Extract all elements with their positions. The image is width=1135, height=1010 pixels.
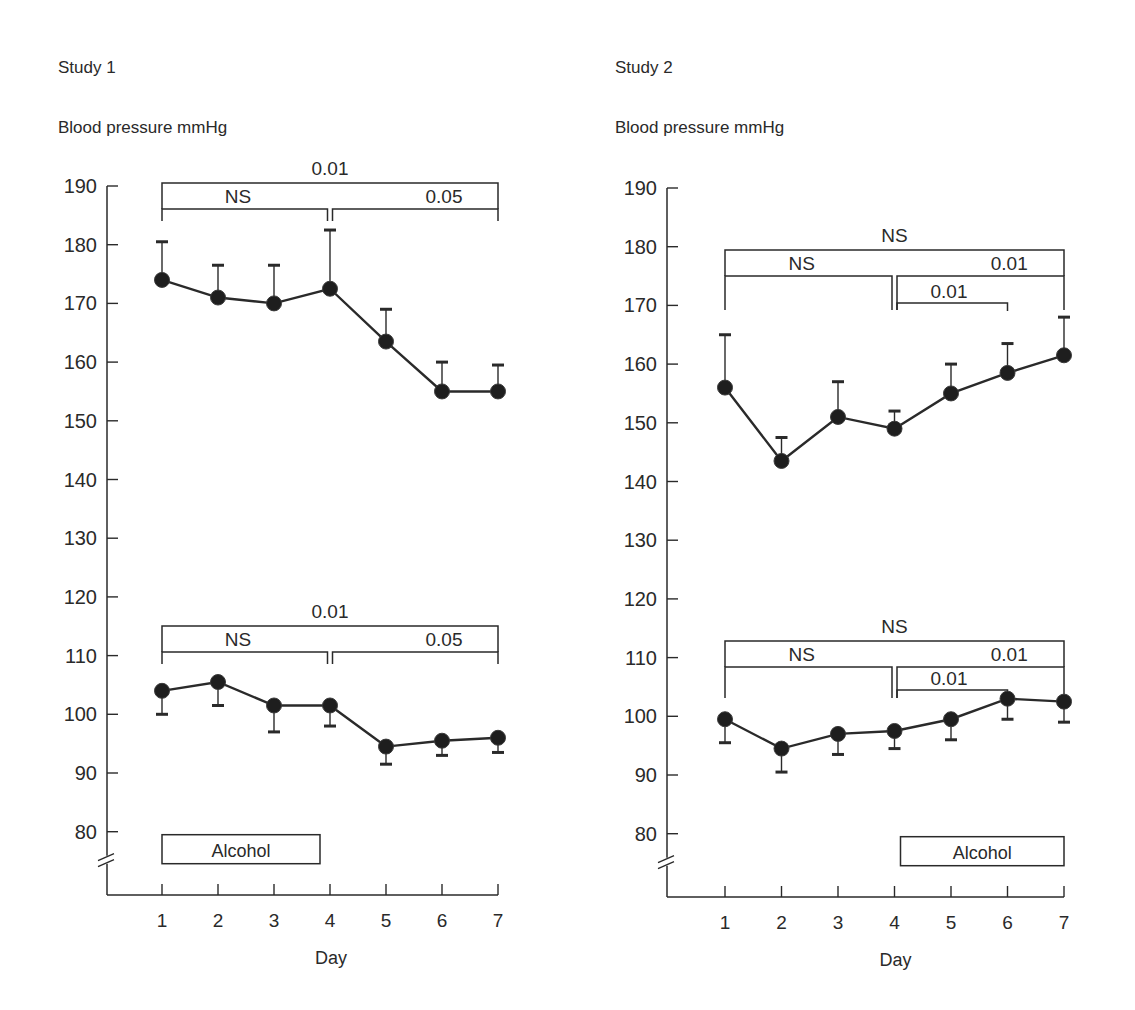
x-tick-label: 5 xyxy=(946,912,957,933)
data-point xyxy=(831,409,846,424)
x-axis-label: Day xyxy=(315,948,347,968)
significance-label: 0.01 xyxy=(312,158,349,179)
alcohol-label: Alcohol xyxy=(953,843,1012,863)
x-tick-label: 1 xyxy=(157,910,168,931)
y-tick-label: 90 xyxy=(635,764,657,786)
y-axis-label: Blood pressure mmHg xyxy=(58,118,227,137)
y-tick-label: 80 xyxy=(635,823,657,845)
data-point xyxy=(774,741,789,756)
data-point xyxy=(944,386,959,401)
significance-label: NS xyxy=(789,644,815,665)
data-point xyxy=(435,733,450,748)
data-point xyxy=(379,334,394,349)
x-tick-label: 2 xyxy=(776,912,787,933)
data-point xyxy=(211,290,226,305)
y-tick-label: 180 xyxy=(624,236,657,258)
y-tick-label: 150 xyxy=(64,410,97,432)
data-point xyxy=(1057,694,1072,709)
x-tick-label: 3 xyxy=(269,910,280,931)
x-axis-label: Day xyxy=(879,950,911,970)
series-systolic xyxy=(155,230,506,399)
significance-label: 0.05 xyxy=(426,629,463,650)
data-point xyxy=(267,296,282,311)
significance-label: 0.01 xyxy=(931,668,968,689)
x-tick-label: 4 xyxy=(325,910,336,931)
series-systolic xyxy=(718,317,1072,468)
y-tick-label: 120 xyxy=(624,588,657,610)
data-point xyxy=(379,739,394,754)
data-point xyxy=(1000,691,1015,706)
y-tick-label: 170 xyxy=(64,292,97,314)
y-tick-label: 90 xyxy=(75,762,97,784)
blood-pressure-figure: Study 1Blood pressure mmHg80901001101201… xyxy=(0,0,1135,1010)
data-point xyxy=(323,698,338,713)
data-point xyxy=(831,726,846,741)
data-point xyxy=(718,380,733,395)
panel-title: Study 1 xyxy=(58,58,116,77)
y-tick-label: 190 xyxy=(624,177,657,199)
x-tick-label: 6 xyxy=(1002,912,1013,933)
x-tick-label: 3 xyxy=(833,912,844,933)
data-point xyxy=(211,675,226,690)
data-point xyxy=(491,384,506,399)
data-point xyxy=(323,281,338,296)
data-point xyxy=(944,712,959,727)
y-tick-label: 160 xyxy=(624,353,657,375)
panel-study-1: Study 1Blood pressure mmHg80901001101201… xyxy=(58,58,506,968)
x-tick-label: 2 xyxy=(213,910,224,931)
series-diastolic xyxy=(718,691,1072,772)
data-point xyxy=(774,453,789,468)
data-point xyxy=(718,712,733,727)
y-tick-label: 110 xyxy=(65,645,97,667)
significance-label: NS xyxy=(225,186,251,207)
y-tick-label: 140 xyxy=(64,469,97,491)
x-tick-label: 7 xyxy=(1059,912,1070,933)
data-point xyxy=(435,384,450,399)
y-tick-label: 130 xyxy=(624,529,657,551)
significance-label: NS xyxy=(789,253,815,274)
y-tick-label: 110 xyxy=(625,647,657,669)
significance-label: 0.01 xyxy=(991,644,1028,665)
y-tick-label: 100 xyxy=(624,705,657,727)
y-tick-label: 130 xyxy=(64,527,97,549)
data-point xyxy=(887,723,902,738)
data-point xyxy=(155,683,170,698)
data-point xyxy=(887,421,902,436)
significance-label: NS xyxy=(881,225,907,246)
significance-label: 0.05 xyxy=(426,186,463,207)
significance-label: 0.01 xyxy=(312,601,349,622)
panel-title: Study 2 xyxy=(615,58,673,77)
x-tick-label: 6 xyxy=(437,910,448,931)
significance-label: 0.01 xyxy=(931,281,968,302)
data-point xyxy=(1057,348,1072,363)
data-point xyxy=(155,272,170,287)
y-tick-label: 80 xyxy=(75,821,97,843)
significance-label: 0.01 xyxy=(991,253,1028,274)
data-point xyxy=(267,698,282,713)
x-tick-label: 7 xyxy=(493,910,504,931)
y-tick-label: 160 xyxy=(64,351,97,373)
y-tick-label: 140 xyxy=(624,471,657,493)
y-tick-label: 150 xyxy=(624,412,657,434)
panel-study-2: Study 2Blood pressure mmHg80901001101201… xyxy=(615,58,1072,970)
data-point xyxy=(491,730,506,745)
axis-break-icon xyxy=(658,856,674,863)
data-point xyxy=(1000,365,1015,380)
x-tick-label: 1 xyxy=(720,912,731,933)
significance-label: NS xyxy=(881,616,907,637)
y-tick-label: 180 xyxy=(64,234,97,256)
x-tick-label: 5 xyxy=(381,910,392,931)
x-tick-label: 4 xyxy=(889,912,900,933)
series-diastolic xyxy=(155,675,506,765)
y-tick-label: 170 xyxy=(624,294,657,316)
y-tick-label: 120 xyxy=(64,586,97,608)
significance-label: NS xyxy=(225,629,251,650)
y-tick-label: 190 xyxy=(64,175,97,197)
axis-break-icon xyxy=(98,854,114,861)
alcohol-label: Alcohol xyxy=(211,841,270,861)
y-axis-label: Blood pressure mmHg xyxy=(615,118,784,137)
y-tick-label: 100 xyxy=(64,703,97,725)
